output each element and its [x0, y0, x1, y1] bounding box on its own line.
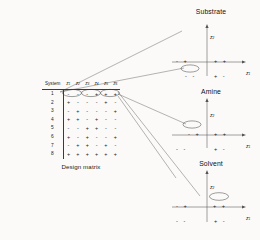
cell-sign-z6: +	[111, 90, 120, 99]
cell-system: 5	[42, 124, 63, 133]
cell-sign-z2: -	[73, 99, 82, 108]
cell-sign-z4: -	[92, 107, 101, 116]
cell-sign-z6: -	[111, 142, 120, 151]
table-body: 1---+++2+---+-3-+---+4++-+--5--++--6+-+-…	[42, 90, 120, 159]
cell-sign-z5: +	[101, 150, 110, 159]
table-row: 8++++++	[42, 150, 120, 159]
header-z3: z3	[83, 80, 92, 90]
cell-sign-z4: -	[92, 99, 101, 108]
table-row: 3-+---+	[42, 107, 120, 116]
y-axis-label-substrate: z2	[210, 34, 214, 40]
cell-sign-z1: +	[63, 99, 73, 108]
plot-area-substrate: z2 z1 - + + + - - + -	[168, 20, 254, 72]
cell-sign-z6: -	[111, 116, 120, 125]
header-z1: z1	[63, 80, 73, 90]
cell-sign-z2: -	[73, 90, 82, 99]
table-row: 5--++--	[42, 124, 120, 133]
cell-sign-z2: +	[73, 107, 82, 116]
cell-sign-z3: +	[83, 133, 92, 142]
cell-sign-z5: +	[101, 99, 110, 108]
cell-system: 8	[42, 150, 63, 159]
plot-area-solvent: z2 z1 - + + + - - + -	[168, 172, 254, 224]
cell-sign-z5: -	[101, 133, 110, 142]
x-axis-label-amine: z1	[246, 143, 250, 149]
cell-sign-z1: +	[63, 133, 73, 142]
plot-title-substrate: Substrate	[168, 8, 254, 15]
cell-system: 6	[42, 133, 63, 142]
quadrant-upper-left-amine: - +	[188, 131, 201, 137]
quadrant-lower-right-solvent: + -	[214, 218, 227, 224]
cell-system: 7	[42, 142, 63, 151]
header-z4: z4	[92, 80, 101, 90]
quadrant-lower-right-substrate: + -	[214, 73, 227, 79]
y-axis-label-solvent: z2	[210, 184, 214, 190]
table-row: 6+-+--+	[42, 133, 120, 142]
cell-system: 3	[42, 107, 63, 116]
quadrant-upper-right-substrate: + +	[214, 58, 228, 64]
quadrant-upper-left-substrate: - +	[176, 58, 189, 64]
x-axis-label-substrate: z1	[246, 70, 250, 76]
plot-area-amine: z2 z1 - + + + - - + -	[168, 100, 254, 152]
header-z2: z2	[73, 80, 82, 90]
cell-sign-z4: +	[92, 150, 101, 159]
table-header-row: System z1 z2 z3 z4 z5 z6	[42, 80, 120, 90]
cell-sign-z6: -	[111, 124, 120, 133]
plot-title-solvent: Solvent	[168, 160, 254, 167]
cell-sign-z1: +	[63, 150, 73, 159]
cell-sign-z2: +	[73, 142, 82, 151]
table-row: 2+---+-	[42, 99, 120, 108]
quadrant-upper-left-solvent: - +	[176, 203, 189, 209]
cell-system: 4	[42, 116, 63, 125]
cell-sign-z4: +	[92, 90, 101, 99]
cell-sign-z4: +	[92, 124, 101, 133]
cell-sign-z2: -	[73, 124, 82, 133]
cell-sign-z4: -	[92, 142, 101, 151]
cell-sign-z3: -	[83, 116, 92, 125]
header-z5: z5	[101, 80, 110, 90]
cell-sign-z3: +	[83, 124, 92, 133]
cell-sign-z6: +	[111, 150, 120, 159]
cell-sign-z6: +	[111, 107, 120, 116]
cell-sign-z5: +	[101, 90, 110, 99]
cell-sign-z2: -	[73, 133, 82, 142]
cell-system: 2	[42, 99, 63, 108]
cell-sign-z4: -	[92, 133, 101, 142]
header-z6: z6	[111, 80, 120, 90]
table-row: 7-++-+-	[42, 142, 120, 151]
plot-amine: Amine z2 z1 - + + + - - + -	[168, 88, 254, 152]
cell-sign-z1: -	[63, 124, 73, 133]
cell-sign-z6: -	[111, 99, 120, 108]
cell-sign-z1: -	[63, 90, 73, 99]
header-system: System	[42, 80, 63, 90]
quadrant-lower-left-amine: - -	[176, 146, 187, 152]
cell-sign-z1: -	[63, 107, 73, 116]
cell-sign-z1: +	[63, 116, 73, 125]
quadrant-lower-left-substrate: - -	[185, 73, 196, 79]
quadrant-lower-left-solvent: - -	[176, 218, 187, 224]
figure-caption: Design matrix	[42, 163, 120, 170]
cell-system: 1	[42, 90, 63, 99]
y-axis-label-amine: z2	[210, 112, 214, 118]
cell-sign-z5: +	[101, 142, 110, 151]
x-axis-label-solvent: z1	[246, 215, 250, 221]
plot-title-amine: Amine	[168, 88, 254, 95]
cell-sign-z5: -	[101, 116, 110, 125]
cell-sign-z5: -	[101, 124, 110, 133]
design-matrix-table: System z1 z2 z3 z4 z5 z6 1---+++2+---+-3…	[42, 80, 120, 159]
cell-sign-z3: -	[83, 99, 92, 108]
table-row: 4++-+--	[42, 116, 120, 125]
cell-sign-z5: -	[101, 107, 110, 116]
plot-solvent: Solvent z2 z1 - + + + - - + -	[168, 160, 254, 224]
quadrant-lower-right-amine: + -	[214, 146, 227, 152]
quadrant-upper-right-solvent: + +	[213, 203, 227, 209]
table-row: 1---+++	[42, 90, 120, 99]
cell-sign-z3: +	[83, 142, 92, 151]
cell-sign-z1: -	[63, 142, 73, 151]
cell-sign-z3: -	[83, 107, 92, 116]
cell-sign-z6: +	[111, 133, 120, 142]
cell-sign-z2: +	[73, 150, 82, 159]
plot-substrate: Substrate z2 z1 - + + + - - + -	[168, 8, 254, 72]
cell-sign-z3: +	[83, 150, 92, 159]
cell-sign-z3: -	[83, 90, 92, 99]
cell-sign-z2: +	[73, 116, 82, 125]
